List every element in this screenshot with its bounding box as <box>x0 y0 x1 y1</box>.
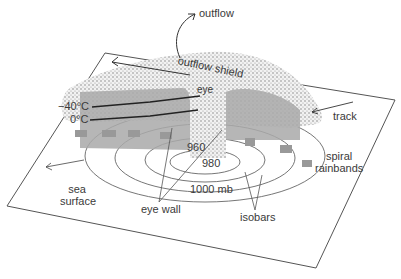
rainband <box>102 130 116 137</box>
minus40-label: −40°C <box>58 100 89 112</box>
isobars-label: isobars <box>240 211 275 223</box>
surface-label: surface <box>57 195 99 207</box>
outflow-label: outflow <box>199 7 234 19</box>
rainband <box>75 130 87 137</box>
spiral-label: spiral <box>326 150 352 162</box>
outflow-arrow <box>176 14 195 58</box>
isobar-980-label: 980 <box>202 157 220 169</box>
eye-label: eye <box>197 84 213 96</box>
track-label: track <box>333 110 357 122</box>
hurricane-diagram <box>0 0 401 279</box>
zero-label: 0°C <box>70 113 88 125</box>
sea-label: sea <box>62 183 92 195</box>
rainbands-label: rainbands <box>315 162 363 174</box>
isobar-1000-label: 1000 mb <box>190 183 233 195</box>
rainband <box>128 130 140 137</box>
rainband <box>280 145 292 153</box>
isobar-960-label: 960 <box>187 141 205 153</box>
rainband <box>302 160 312 167</box>
rainband <box>245 138 255 146</box>
eye-wall-label: eye wall <box>141 203 181 215</box>
